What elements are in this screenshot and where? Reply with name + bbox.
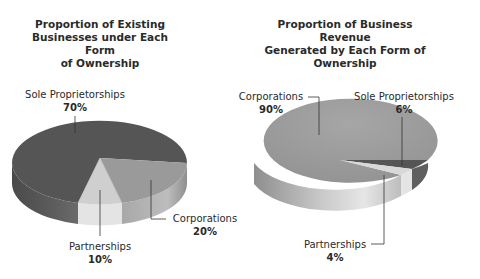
- right-partnerships-label: Partnerships 4%: [302, 238, 368, 264]
- label-percent: 10%: [62, 253, 138, 266]
- label-name: Sole Proprietorships: [354, 91, 454, 102]
- right-pie: [254, 97, 438, 244]
- left-sole-label: Sole Proprietorships 70%: [22, 88, 128, 114]
- label-percent: 20%: [170, 225, 240, 238]
- label-percent: 70%: [22, 101, 128, 114]
- label-name: Corporations: [173, 213, 237, 224]
- label-name: Partnerships: [304, 239, 366, 250]
- left-partnerships-label: Partnerships 10%: [62, 240, 138, 266]
- label-name: Sole Proprietorships: [25, 89, 125, 100]
- left-pie: [12, 116, 187, 236]
- label-percent: 4%: [302, 251, 368, 264]
- pie-charts-graphic: [0, 0, 480, 279]
- label-percent: 90%: [236, 103, 306, 116]
- left-corporations-label: Corporations 20%: [170, 212, 240, 238]
- right-sole-label: Sole Proprietorships 6%: [352, 90, 456, 116]
- label-name: Corporations: [239, 91, 303, 102]
- right-corporations-label: Corporations 90%: [236, 90, 306, 116]
- label-name: Partnerships: [69, 241, 131, 252]
- label-percent: 6%: [352, 103, 456, 116]
